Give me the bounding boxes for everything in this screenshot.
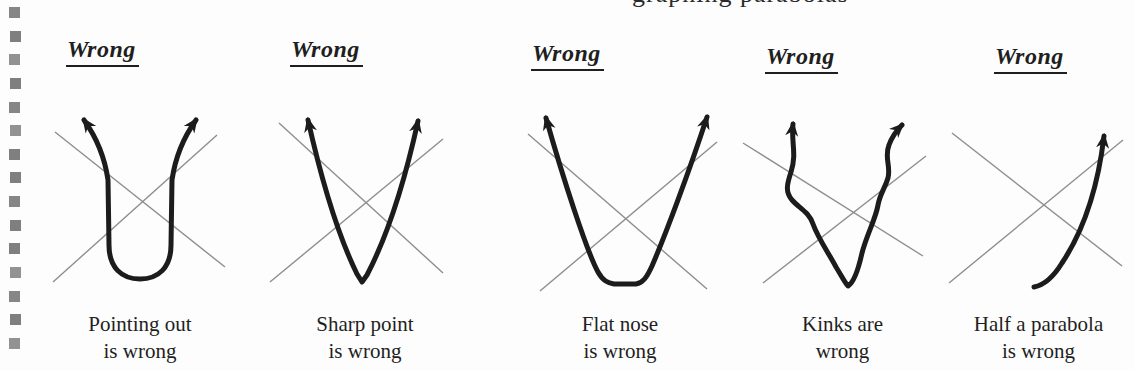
binding-hole bbox=[10, 78, 21, 89]
binding-hole bbox=[10, 267, 21, 278]
panel-pointing-out: Wrong Pointing out is wrong bbox=[40, 0, 240, 371]
binding-hole bbox=[9, 196, 20, 207]
binding-hole bbox=[10, 31, 21, 42]
wrong-heading: Wrong bbox=[66, 37, 139, 67]
binding-hole bbox=[10, 125, 21, 136]
panel-kinks: Wrong Kinks are wrong bbox=[732, 0, 937, 371]
binding-hole bbox=[9, 7, 20, 18]
textbook-figure-page: graphing parabolas Wrong Pointing out is… bbox=[0, 0, 1135, 371]
guide-line bbox=[53, 135, 217, 282]
guide-line bbox=[528, 134, 707, 289]
caption-line: is wrong bbox=[329, 339, 402, 363]
caption-line: is wrong bbox=[104, 339, 177, 363]
caption-line: Sharp point bbox=[316, 312, 413, 336]
guide-line bbox=[743, 143, 923, 256]
binding-hole bbox=[9, 54, 20, 65]
half-parabola-figure bbox=[942, 100, 1135, 305]
binding-hole bbox=[9, 243, 20, 254]
pointing-out-parabola-figure bbox=[40, 100, 240, 305]
guide-line bbox=[949, 140, 1123, 283]
wrong-heading: Wrong bbox=[290, 37, 363, 67]
caption-line: Kinks are bbox=[802, 312, 883, 336]
binding-hole bbox=[9, 338, 20, 349]
binding-hole bbox=[9, 291, 20, 302]
caption-line: Flat nose bbox=[582, 312, 658, 336]
figure-caption: Pointing out is wrong bbox=[40, 311, 240, 365]
caption-line: wrong bbox=[816, 339, 870, 363]
guide-line bbox=[55, 132, 225, 267]
wrong-heading: Wrong bbox=[994, 44, 1067, 74]
binding-hole bbox=[10, 220, 21, 231]
figure-caption: Kinks are wrong bbox=[740, 311, 945, 365]
wrong-heading: Wrong bbox=[765, 44, 838, 74]
panel-sharp-point: Wrong Sharp point is wrong bbox=[265, 0, 465, 371]
caption-line: Half a parabola bbox=[974, 312, 1103, 336]
figure-caption: Half a parabola is wrong bbox=[942, 311, 1135, 365]
caption-line: is wrong bbox=[584, 339, 657, 363]
figure-caption: Flat nose is wrong bbox=[515, 311, 725, 365]
binding-edge bbox=[9, 7, 22, 349]
binding-hole bbox=[9, 149, 20, 160]
parabola-curve bbox=[308, 120, 418, 282]
figure-caption: Sharp point is wrong bbox=[265, 311, 465, 365]
flat-nose-parabola-figure bbox=[515, 100, 725, 305]
parabola-curve bbox=[546, 117, 707, 284]
panel-flat-nose: Wrong Flat nose is wrong bbox=[515, 0, 725, 371]
binding-hole bbox=[10, 172, 21, 183]
caption-line: is wrong bbox=[1002, 339, 1075, 363]
caption-line: Pointing out bbox=[88, 312, 191, 336]
guide-line bbox=[270, 139, 443, 282]
parabola-curve bbox=[1034, 136, 1104, 287]
guide-line bbox=[279, 123, 443, 273]
binding-hole bbox=[10, 314, 21, 325]
parabola-curve bbox=[787, 124, 902, 286]
panel-half-parabola: Wrong Half a parabola is wrong bbox=[942, 0, 1135, 371]
binding-hole bbox=[9, 102, 20, 113]
wrong-heading: Wrong bbox=[531, 41, 604, 71]
kinked-parabola-figure bbox=[732, 100, 937, 305]
sharp-point-parabola-figure bbox=[265, 100, 465, 305]
guide-line bbox=[952, 133, 1122, 266]
